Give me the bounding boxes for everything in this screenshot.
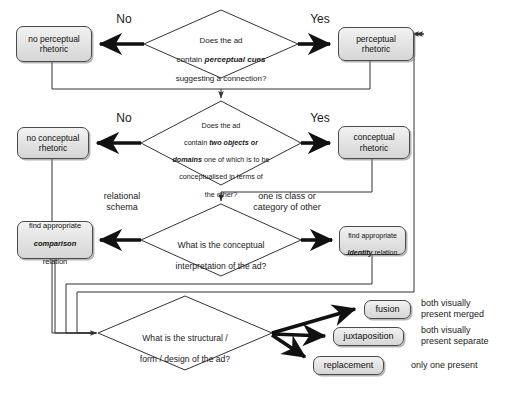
node-label: find appropriate identity relation [345,224,401,257]
node-label: find appropriate comparison relation [26,213,84,266]
node-label-emphasis: comparison [34,239,77,248]
edge-label-d2-yes: Yes [300,111,340,125]
decision-line-3-suffix: one of which is to be [202,155,270,164]
node-label: perceptual rhetoric [353,34,399,54]
node-label: replacement [321,360,377,371]
decision-line-3-emphasis: domains [172,155,202,164]
decision-line-1: Does the ad [202,121,241,130]
edge-label-relational-schema: relational schema [84,191,160,212]
decision-line-1: What is the structural / [142,333,228,343]
decision-line-4: conceptualised in terms of [179,172,263,181]
node-no-conceptual-rhetoric[interactable]: no conceptual rhetoric [17,127,89,159]
node-fusion[interactable]: fusion [364,300,411,319]
edge-label-class-category: one is class or category of other [232,191,342,212]
decision-label-conceptual: Does the ad contain two objects or domai… [151,113,291,199]
side-note-fusion: both visually present merged [421,298,484,320]
node-juxtaposition[interactable]: juxtaposition [333,327,404,346]
node-label-line2-suffix: relation [372,249,397,256]
node-label: no conceptual rhetoric [24,133,83,153]
decision-line-2: interpretation of the ad? [176,261,267,271]
node-conceptual-rhetoric[interactable]: conceptual rhetoric [338,126,410,159]
decision-label-perceptual: Does the ad contain perceptual cues sugg… [151,26,291,84]
node-label-line1: find appropriate [29,221,81,230]
decision-label-structure: What is the structural / form / design o… [105,323,265,364]
decision-line-2-emphasis: two objects or [209,138,258,147]
side-note-juxtaposition: both visually present separate [421,325,489,347]
decision-line-1: What is the conceptual [178,240,265,250]
edge-label-d1-no: No [104,12,144,26]
decision-line-2-prefix: contain [184,138,209,147]
node-label: fusion [372,304,402,315]
decision-label-interpretation: What is the conceptual interpretation of… [141,230,301,271]
node-label: juxtaposition [340,331,396,342]
node-find-identity-relation[interactable]: find appropriate identity relation [339,226,406,255]
side-note-replacement: only one present [411,360,478,371]
node-label-line1: find appropriate [348,232,397,239]
flowchart-diagram: no perceptual rhetoric perceptual rhetor… [0,0,510,394]
edge-n5-to-d4 [55,259,96,333]
node-find-comparison-relation[interactable]: find appropriate comparison relation [17,221,93,259]
decision-line-1: Does the ad [199,36,242,45]
decision-line-3: suggesting a connection? [176,74,267,83]
node-label-line3: relation [43,257,68,266]
decision-line-2-prefix: contain [177,55,205,64]
node-no-perceptual-rhetoric[interactable]: no perceptual rhetoric [16,26,92,62]
edge-label-d2-no: No [104,111,144,125]
decision-line-2: form / design of the ad? [140,354,230,364]
node-label: conceptual rhetoric [350,132,397,152]
node-label: no perceptual rhetoric [25,34,83,54]
edge-label-d1-yes: Yes [300,12,340,26]
edge-d4-replacement [272,335,305,357]
edge-return-to-n2 [414,34,416,292]
decision-line-2-emphasis: perceptual cues [205,55,266,64]
node-label-emphasis: identity [348,249,373,256]
node-replacement[interactable]: replacement [313,356,384,375]
node-perceptual-rhetoric[interactable]: perceptual rhetoric [338,27,414,61]
edge-d4-juxtaposition [272,334,325,336]
